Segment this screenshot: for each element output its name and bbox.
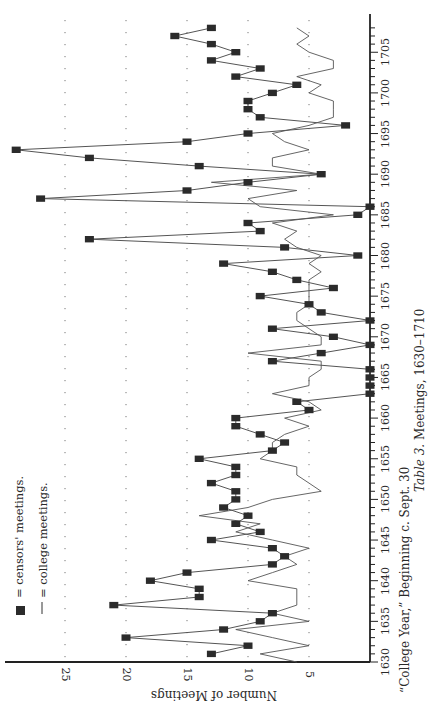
- censors-data-marker: [244, 513, 253, 519]
- censors-data-marker: [256, 65, 265, 71]
- censors-data-marker: [268, 358, 277, 364]
- year-tick-label: 1700: [379, 79, 392, 107]
- censors-data-marker: [292, 82, 301, 88]
- censors-data-marker: [353, 252, 362, 258]
- legend: [16, 602, 42, 615]
- censors-data-marker: [36, 195, 45, 201]
- censors-data-marker: [353, 212, 362, 218]
- censors-data-marker: [317, 350, 326, 356]
- censors-data-marker: [268, 545, 277, 551]
- censors-data-marker: [85, 155, 94, 161]
- censors-data-marker: [329, 285, 338, 291]
- censors-data-marker: [329, 334, 338, 340]
- caption-title: Meetings, 1630–1710: [413, 309, 427, 440]
- censors-data-marker: [109, 602, 118, 608]
- college-meetings-series: [199, 28, 333, 662]
- meetings-tick-label: 15: [181, 668, 194, 682]
- censors-data-marker: [170, 33, 179, 39]
- censors-data-marker: [231, 423, 240, 429]
- caption-table-label: Table 3.: [413, 444, 427, 492]
- censors-data-marker: [231, 49, 240, 55]
- year-tick-label: 1670: [379, 323, 392, 351]
- censors-data-marker: [317, 171, 326, 177]
- censors-data-marker: [85, 236, 94, 242]
- censors-data-marker: [244, 220, 253, 226]
- meetings-chart: [0, 0, 433, 701]
- year-tick-label: 1640: [379, 567, 392, 595]
- censors-data-marker: [231, 415, 240, 421]
- censors-data-marker: [244, 643, 253, 649]
- censors-data-marker: [244, 130, 253, 136]
- legend-college-label: = college meetings.: [36, 482, 50, 598]
- censors-data-marker: [183, 139, 192, 145]
- censors-data-marker: [268, 610, 277, 616]
- censors-data-marker: [280, 553, 289, 559]
- censors-data-marker: [207, 41, 216, 47]
- censors-data-marker: [268, 326, 277, 332]
- censors-data-marker: [195, 586, 204, 592]
- censors-data-marker: [244, 179, 253, 185]
- censors-data-marker: [366, 391, 375, 397]
- censors-data-marker: [256, 618, 265, 624]
- censors-data-marker: [366, 366, 375, 372]
- censors-data-marker: [256, 529, 265, 535]
- meetings-tick-label: 5: [303, 668, 316, 682]
- censors-data-marker: [366, 374, 375, 380]
- censors-data-marker: [268, 90, 277, 96]
- year-tick-label: 1645: [379, 526, 392, 554]
- censors-data-marker: [231, 464, 240, 470]
- censors-data-marker: [292, 399, 301, 405]
- year-tick-label: 1630: [379, 648, 392, 676]
- censors-data-marker: [183, 569, 192, 575]
- year-tick-label: 1665: [379, 363, 392, 391]
- censors-data-marker: [305, 407, 314, 413]
- censors-legend-marker-icon: [16, 606, 25, 615]
- censors-data-marker: [219, 260, 228, 266]
- censors-data-marker: [366, 382, 375, 388]
- caption: Table 3. Meetings, 1630–1710: [413, 309, 427, 492]
- y-axis-title: Number of Meetings: [134, 688, 294, 701]
- legend-censors-label: = censors' meetings.: [12, 476, 26, 598]
- censors-data-marker: [268, 447, 277, 453]
- censors-data-marker: [256, 228, 265, 234]
- year-tick-label: 1695: [379, 120, 392, 148]
- censors-data-marker: [231, 73, 240, 79]
- censors-data-marker: [207, 537, 216, 543]
- year-tick-label: 1660: [379, 404, 392, 432]
- censors-data-marker: [12, 147, 21, 153]
- censors-data-marker: [244, 106, 253, 112]
- censors-data-marker: [256, 114, 265, 120]
- censors-data-marker: [195, 456, 204, 462]
- axes-frame: [5, 14, 370, 662]
- censors-data-marker: [231, 521, 240, 527]
- censors-data-marker: [268, 269, 277, 275]
- censors-data-marker: [280, 439, 289, 445]
- year-tick-label: 1675: [379, 282, 392, 310]
- censors-data-marker: [183, 187, 192, 193]
- censors-data-marker: [207, 480, 216, 486]
- x-axis-subtitle: “College Year,” Beginning c. Sept. 30: [398, 467, 412, 693]
- censors-data-marker: [366, 342, 375, 348]
- censors-data-marker: [256, 431, 265, 437]
- meetings-tick-label: 20: [120, 668, 133, 682]
- censors-data-marker: [305, 301, 314, 307]
- censors-data-marker: [207, 25, 216, 31]
- censors-data-marker: [195, 163, 204, 169]
- year-tick-label: 1655: [379, 445, 392, 473]
- censors-data-marker: [317, 309, 326, 315]
- censors-data-marker: [207, 651, 216, 657]
- meetings-tick-label: 25: [59, 668, 72, 682]
- year-tick-label: 1650: [379, 485, 392, 513]
- year-tick-label: 1635: [379, 607, 392, 635]
- censors-meetings-series: [12, 25, 375, 657]
- censors-data-marker: [256, 293, 265, 299]
- censors-data-marker: [231, 488, 240, 494]
- year-tick-label: 1705: [379, 38, 392, 66]
- censors-data-marker: [231, 496, 240, 502]
- censors-data-marker: [146, 578, 155, 584]
- censors-data-marker: [366, 317, 375, 323]
- censors-data-marker: [219, 504, 228, 510]
- censors-data-marker: [366, 204, 375, 210]
- censors-data-marker: [292, 277, 301, 283]
- censors-data-marker: [219, 626, 228, 632]
